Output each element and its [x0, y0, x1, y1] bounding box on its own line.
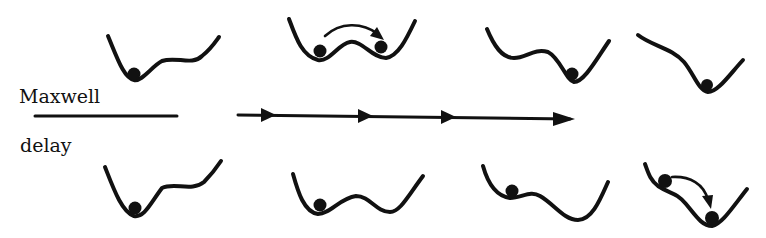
axis-line	[238, 115, 570, 119]
potential-panel	[293, 174, 423, 214]
potential-wells-diagram	[0, 0, 766, 238]
ball	[314, 199, 327, 212]
ball	[566, 68, 579, 81]
ball	[701, 79, 713, 91]
potential-curve	[638, 35, 743, 92]
potential-curve	[293, 174, 423, 214]
potential-panel	[645, 164, 747, 226]
potential-panel	[638, 35, 743, 92]
potential-curve	[108, 36, 219, 80]
ball	[129, 202, 142, 215]
potential-curve	[645, 164, 747, 226]
arrowhead	[702, 195, 713, 209]
maxwell-row	[108, 19, 743, 92]
ball	[314, 45, 327, 58]
ball	[658, 174, 672, 188]
potential-curve	[487, 29, 609, 82]
arrowhead	[261, 108, 276, 122]
delay-label: delay	[20, 136, 72, 155]
potential-panel	[483, 166, 608, 220]
potential-panel	[487, 29, 609, 82]
potential-panel	[289, 19, 415, 60]
delay-row	[105, 161, 747, 226]
arrowhead	[441, 110, 456, 124]
parameter-axis	[238, 108, 575, 126]
ball	[375, 41, 388, 54]
potential-panel	[105, 161, 221, 216]
potential-curve	[105, 161, 221, 216]
maxwell-label: Maxwell	[19, 87, 100, 106]
arrowhead	[358, 109, 373, 123]
ball	[506, 185, 519, 198]
ball	[128, 68, 141, 81]
arrowhead	[553, 112, 575, 126]
potential-curve	[483, 166, 608, 220]
transition-arrow	[325, 25, 378, 36]
ball	[705, 211, 719, 225]
potential-panel	[108, 36, 219, 81]
